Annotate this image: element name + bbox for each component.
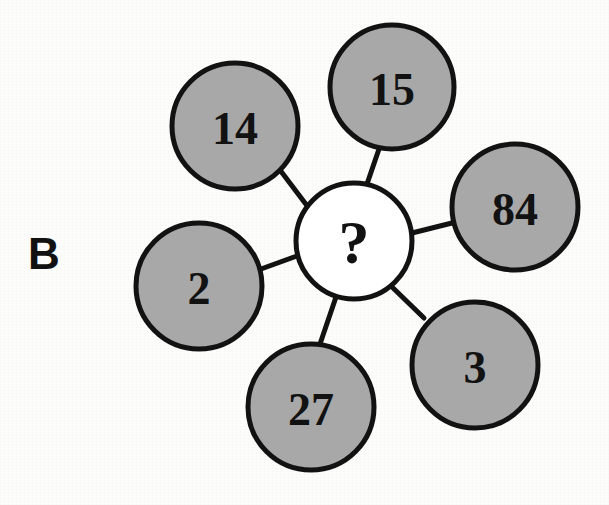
node-14-label: 14 (212, 103, 258, 154)
node-2[interactable]: 2 (136, 223, 262, 349)
node-27-label: 27 (288, 384, 334, 435)
radial-node-diagram: 15 14 84 2 3 27 (0, 0, 609, 505)
node-3[interactable]: 3 (412, 302, 538, 428)
node-14[interactable]: 14 (172, 63, 298, 189)
node-15-label: 15 (369, 64, 415, 115)
center-node-question-mark: ? (339, 208, 370, 276)
center-node[interactable]: ? (296, 183, 412, 299)
node-2-label: 2 (188, 263, 211, 314)
connector-center-to-84 (412, 223, 452, 233)
connector-center-to-15 (367, 149, 379, 184)
puzzle-figure: B 15 14 84 (0, 0, 609, 505)
connector-center-to-14 (280, 170, 308, 207)
node-84-label: 84 (492, 184, 538, 235)
node-27[interactable]: 27 (248, 344, 374, 470)
node-15[interactable]: 15 (330, 25, 454, 149)
connector-center-to-27 (320, 297, 336, 344)
connector-center-to-3 (391, 286, 424, 318)
node-3-label: 3 (464, 342, 487, 393)
connector-center-to-2 (261, 256, 297, 269)
node-84[interactable]: 84 (452, 144, 578, 270)
